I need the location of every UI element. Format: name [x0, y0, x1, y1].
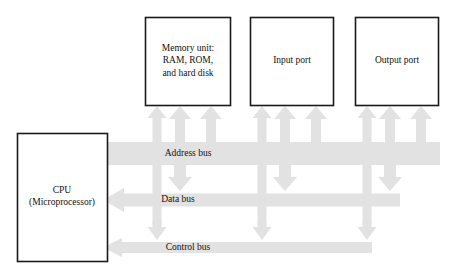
input-port-box[interactable]	[251, 18, 334, 106]
output-port-box[interactable]	[356, 18, 439, 106]
data-bus-bar	[103, 188, 400, 212]
memory-unit-box[interactable]	[146, 18, 231, 106]
memory-down-arrow-control	[148, 222, 167, 240]
output-down-arrow-control	[358, 222, 377, 240]
output-down-arrow-data	[378, 163, 402, 191]
cpu-box[interactable]	[18, 134, 108, 262]
diagram-svg	[0, 0, 453, 275]
input-stem-to-control	[258, 163, 267, 225]
input-down-arrow-control	[253, 222, 272, 240]
memory-down-arrow-data	[168, 163, 192, 191]
input-down-arrow-data	[273, 163, 297, 191]
diagram-canvas: Memory unit: RAM, ROM, and hard disk Inp…	[0, 0, 453, 275]
control-bus-bar	[103, 238, 372, 257]
output-stem-to-control	[363, 163, 372, 225]
memory-stem-to-control	[153, 163, 162, 225]
